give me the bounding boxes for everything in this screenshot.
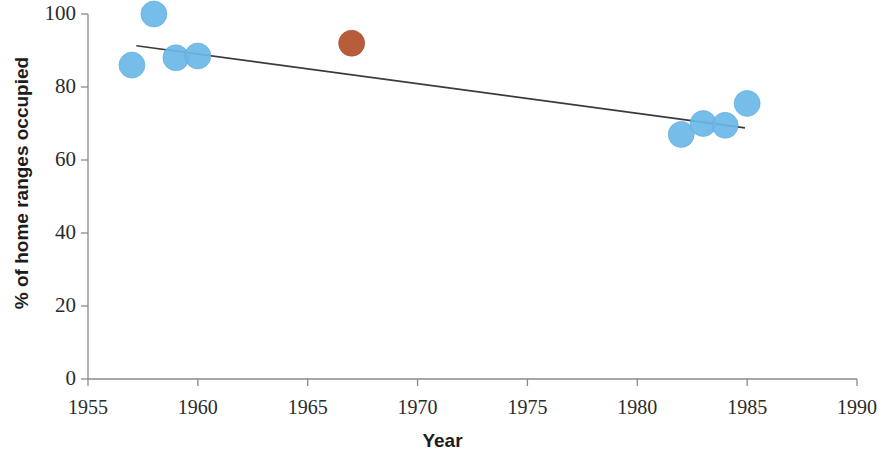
x-axis-title: Year [0,430,885,452]
data-point [339,30,365,56]
data-point [734,90,760,116]
trend-line [136,46,745,128]
data-point [185,43,211,69]
trend-line-group [136,46,745,128]
data-point [119,52,145,78]
data-point [712,112,738,138]
scatter-chart: % of home ranges occupied 020406080100 1… [0,0,885,460]
data-point [141,1,167,27]
data-points-group [119,1,760,147]
axes-group [81,14,857,386]
plot-area [0,0,885,460]
